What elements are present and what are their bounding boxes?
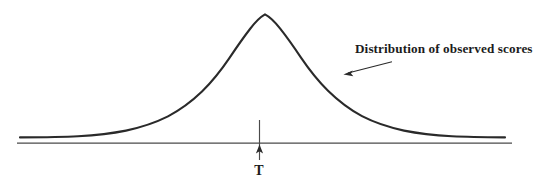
distribution-annotation-label: Distribution of observed scores: [355, 42, 533, 55]
distribution-figure: Distribution of observed scores T: [0, 0, 542, 188]
bell-curve-path: [20, 14, 505, 137]
annotation-arrowhead: [343, 71, 353, 77]
annotation-arrow-shaft: [348, 62, 392, 73]
distribution-plot-svg: [0, 0, 542, 188]
t-marker-label: T: [244, 164, 274, 178]
